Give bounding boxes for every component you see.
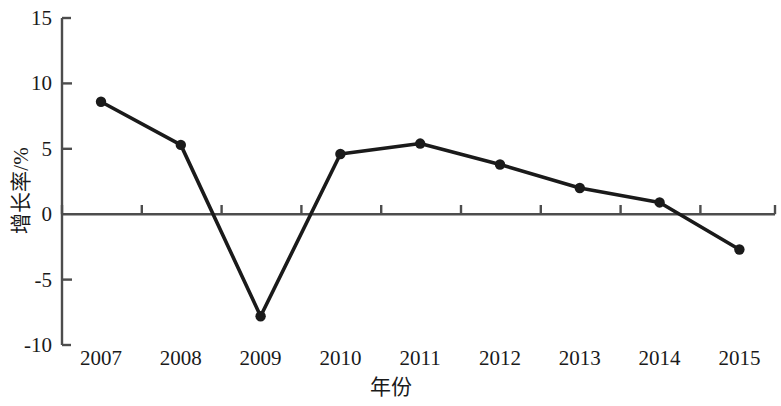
- y-tick-label: 10: [0, 73, 52, 94]
- growth-rate-line-chart: 151050-5-10 2007200820092010201120122013…: [0, 0, 781, 406]
- data-point-markers: [96, 97, 745, 322]
- x-tick-label: 2008: [160, 348, 202, 369]
- data-point: [96, 97, 106, 107]
- data-point: [176, 140, 186, 150]
- data-point: [335, 149, 345, 159]
- data-point: [734, 244, 744, 254]
- x-tick-label: 2009: [240, 348, 282, 369]
- data-point: [495, 159, 505, 169]
- x-tick-label: 2015: [718, 348, 760, 369]
- y-axis-title: 增长率/%: [11, 126, 32, 256]
- data-point: [575, 183, 585, 193]
- data-series-line: [101, 102, 739, 317]
- data-point: [255, 311, 265, 321]
- x-tick-label: 2012: [479, 348, 521, 369]
- y-axis: [62, 18, 72, 345]
- data-point: [654, 197, 664, 207]
- y-tick-label: -5: [0, 269, 52, 290]
- x-tick-label: 2007: [80, 348, 122, 369]
- x-axis-ticks: [142, 205, 701, 214]
- x-axis-title: 年份: [0, 377, 781, 398]
- data-point: [415, 138, 425, 148]
- x-tick-label: 2010: [319, 348, 361, 369]
- y-tick-label: -10: [0, 335, 52, 356]
- x-tick-label: 2014: [639, 348, 681, 369]
- y-tick-label: 15: [0, 8, 52, 29]
- x-tick-label: 2011: [400, 348, 441, 369]
- x-tick-label: 2013: [559, 348, 601, 369]
